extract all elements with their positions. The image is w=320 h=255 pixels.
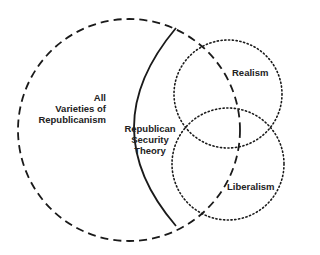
label-line: Varieties of (34, 103, 106, 114)
label-line: Security (119, 134, 181, 145)
liberalism-circle (172, 108, 284, 220)
all-republicanism-label: All Varieties of Republicanism (34, 92, 106, 125)
label-line: Republican (119, 123, 181, 134)
label-line: Realism (232, 67, 268, 78)
label-line: Republicanism (34, 114, 106, 125)
label-line: Liberalism (227, 181, 275, 192)
liberalism-label: Liberalism (227, 181, 275, 192)
republican-security-theory-label: Republican Security Theory (119, 123, 181, 156)
label-line: All (34, 92, 106, 103)
realism-circle (174, 40, 282, 148)
realism-label: Realism (232, 67, 268, 78)
label-line: Theory (119, 145, 181, 156)
